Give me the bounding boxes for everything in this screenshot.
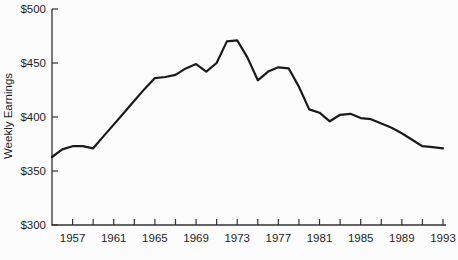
weekly-earnings-line xyxy=(52,40,443,157)
x-tick-label: 1985 xyxy=(348,232,374,244)
axes xyxy=(52,9,446,225)
x-tick-label: 1993 xyxy=(430,232,456,244)
axis-tick-labels: $300$350$400$450$50019571961196519691973… xyxy=(20,3,455,244)
x-tick-label: 1957 xyxy=(60,232,86,244)
earnings-line-chart: $300$350$400$450$50019571961196519691973… xyxy=(0,0,458,260)
chart-figure: $300$350$400$450$50019571961196519691973… xyxy=(0,0,458,260)
y-axis-title: Weekly Earnings xyxy=(2,73,14,159)
x-tick-label: 1973 xyxy=(224,232,250,244)
x-tick-label: 1977 xyxy=(266,232,292,244)
y-tick-label: $500 xyxy=(20,3,46,15)
x-tick-label: 1981 xyxy=(307,232,333,244)
y-tick-label: $450 xyxy=(20,57,46,69)
x-tick-label: 1961 xyxy=(101,232,127,244)
y-tick-label: $350 xyxy=(20,165,46,177)
x-tick-label: 1989 xyxy=(389,232,415,244)
axis-lines xyxy=(52,9,446,225)
axis-ticks xyxy=(52,9,443,225)
x-tick-label: 1969 xyxy=(183,232,209,244)
y-tick-label: $400 xyxy=(20,111,46,123)
earnings-line-series xyxy=(52,40,443,157)
y-tick-label: $300 xyxy=(20,219,46,231)
x-tick-label: 1965 xyxy=(142,232,168,244)
